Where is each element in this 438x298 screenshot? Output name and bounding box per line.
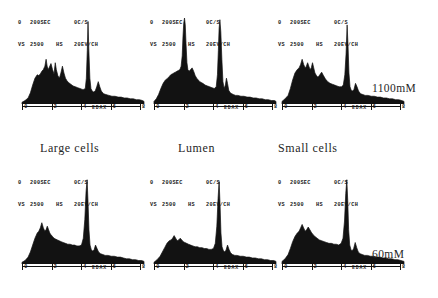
axis-tick (243, 263, 244, 270)
axis-tick (184, 263, 185, 270)
axis-tick-label: 4 (215, 104, 218, 110)
axis-tick-label: 0 (284, 264, 287, 270)
axis-tick (81, 263, 82, 270)
panel-lumen-60: 0200SEC0C/S VS2500HS20EV/CH EDAX 02468 (150, 166, 278, 284)
axis-corner-label: EDAX (92, 265, 107, 270)
axis-tick-label: 0 (24, 104, 27, 110)
axis-corner-label: EDAX (224, 265, 239, 270)
x-axis: EDAX 02468 (150, 263, 278, 272)
x-axis: EDAX 02468 (18, 263, 146, 272)
axis-tick (111, 103, 112, 110)
axis-tick (81, 103, 82, 110)
panel-lumen-1100: 0200SEC0C/S VS2500HS20EV/CH EDAX 02468 (150, 6, 278, 124)
axis-tick-label: 0 (156, 104, 159, 110)
column-caption-lumen: Lumen (178, 141, 215, 156)
axis-tick-label: 2 (314, 264, 317, 270)
axis-tick-label: 2 (186, 104, 189, 110)
axis-tick-label: 8 (274, 264, 277, 270)
axis-tick-label: 4 (83, 264, 86, 270)
axis-tick (213, 103, 214, 110)
axis-tick-label: 2 (54, 104, 57, 110)
axis-tick-label: 8 (402, 264, 405, 270)
axis-tick-label: 4 (343, 104, 346, 110)
axis-tick (282, 263, 283, 270)
column-caption-large-cells: Large cells (40, 141, 99, 156)
axis-tick-label: 4 (343, 264, 346, 270)
spectrum-fill (22, 21, 144, 104)
axis-tick-label: 6 (373, 264, 376, 270)
x-axis: EDAX 02468 (18, 103, 146, 112)
axis-tick (341, 263, 342, 270)
axis-tick (341, 103, 342, 110)
axis-tick-label: 6 (245, 104, 248, 110)
spectrum-fill (154, 18, 276, 104)
spectrum-trace (150, 176, 278, 264)
spectrum-trace (18, 176, 146, 264)
axis-tick-label: 6 (113, 264, 116, 270)
axis-tick (154, 103, 155, 110)
axis-tick-label: 8 (142, 264, 145, 270)
axis-corner-label: EDAX (352, 105, 367, 110)
axis-corner-label: EDAX (352, 265, 367, 270)
row-label-1100mM: 1100mM (372, 82, 416, 94)
axis-tick (213, 263, 214, 270)
axis-tick (52, 103, 53, 110)
spectrum-trace (18, 16, 146, 104)
spectrum-plot (18, 16, 146, 104)
axis-tick-label: 8 (142, 104, 145, 110)
axis-tick-label: 8 (402, 104, 405, 110)
panel-small-cells-60: 0200SEC0C/S VS2500HS20EV/CH EDAX 02468 (278, 166, 406, 284)
axis-tick-label: 6 (113, 104, 116, 110)
axis-tick-label: 0 (24, 264, 27, 270)
spectrum-plot (150, 176, 278, 264)
x-axis: EDAX 02468 (278, 263, 406, 272)
axis-tick (371, 263, 372, 270)
axis-corner-label: EDAX (92, 105, 107, 110)
axis-tick-label: 4 (83, 104, 86, 110)
axis-tick (282, 103, 283, 110)
x-axis: EDAX 02468 (278, 103, 406, 112)
axis-tick-label: 0 (284, 104, 287, 110)
axis-tick-label: 4 (215, 264, 218, 270)
column-caption-small-cells: Small cells (278, 141, 338, 156)
axis-tick (111, 263, 112, 270)
spectrum-plot (18, 176, 146, 264)
axis-tick-label: 6 (245, 264, 248, 270)
axis-tick (22, 103, 23, 110)
axis-tick-label: 2 (314, 104, 317, 110)
axis-tick-label: 2 (54, 264, 57, 270)
axis-tick-label: 6 (373, 104, 376, 110)
edax-spectra-figure: 0200SEC0C/S VS2500HS20EV/CH EDAX 02468 0… (0, 0, 438, 298)
axis-tick (154, 263, 155, 270)
axis-tick (312, 263, 313, 270)
spectrum-fill (154, 181, 276, 264)
axis-tick (243, 103, 244, 110)
axis-tick-label: 2 (186, 264, 189, 270)
spectrum-fill (22, 180, 144, 264)
axis-tick (312, 103, 313, 110)
axis-tick-label: 8 (274, 104, 277, 110)
axis-tick (184, 103, 185, 110)
panel-small-cells-1100: 0200SEC0C/S VS2500HS20EV/CH EDAX 02468 (278, 6, 406, 124)
x-axis: EDAX 02468 (150, 103, 278, 112)
panel-large-cells-60: 0200SEC0C/S VS2500HS20EV/CH EDAX 02468 (18, 166, 146, 284)
panel-large-cells-1100: 0200SEC0C/S VS2500HS20EV/CH EDAX 02468 (18, 6, 146, 124)
axis-corner-label: EDAX (224, 105, 239, 110)
axis-tick (52, 263, 53, 270)
spectrum-trace (150, 16, 278, 104)
axis-tick-label: 0 (156, 264, 159, 270)
axis-tick (22, 263, 23, 270)
spectrum-plot (150, 16, 278, 104)
axis-tick (371, 103, 372, 110)
row-label-60mM: 60mM (372, 248, 404, 260)
